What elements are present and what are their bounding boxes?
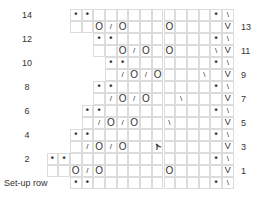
row-label: 1 bbox=[241, 166, 246, 176]
chart-cell: V bbox=[222, 21, 234, 33]
chart-cell bbox=[199, 21, 211, 33]
chart-cell: / bbox=[82, 165, 94, 177]
ssk-icon: \ bbox=[227, 35, 229, 43]
chart-cell bbox=[93, 129, 105, 141]
chart-cell bbox=[82, 117, 94, 129]
chart-cell bbox=[199, 105, 211, 117]
chart-cell bbox=[152, 105, 164, 117]
chart-cell bbox=[199, 153, 211, 165]
chart-cell bbox=[128, 33, 140, 45]
chart-cell: \ bbox=[199, 69, 211, 81]
purl-dot-icon: • bbox=[121, 58, 124, 67]
chart-cell bbox=[140, 153, 152, 165]
chart-cell bbox=[152, 129, 164, 141]
k2tog-icon: / bbox=[110, 143, 112, 151]
yarn-over-icon: O bbox=[95, 166, 103, 176]
k2tog-icon: / bbox=[133, 47, 135, 55]
chart-cell bbox=[105, 177, 117, 189]
chart-cell bbox=[199, 177, 211, 189]
chart-cell: • bbox=[70, 177, 82, 189]
k2tog-icon: / bbox=[98, 119, 100, 127]
chart-cell bbox=[105, 9, 117, 21]
chart-cell bbox=[199, 141, 211, 153]
chart-cell bbox=[93, 177, 105, 189]
yarn-over-icon: O bbox=[165, 22, 173, 32]
chart-cell bbox=[199, 165, 211, 177]
chart-cell: • bbox=[105, 81, 117, 93]
chart-cell bbox=[128, 21, 140, 33]
slip-stitch-icon: V bbox=[225, 46, 231, 55]
chart-cell bbox=[140, 33, 152, 45]
chart-cell bbox=[164, 57, 176, 69]
chart-cell: • bbox=[93, 105, 105, 117]
k2tog-icon: / bbox=[110, 95, 112, 103]
chart-cell: / bbox=[105, 21, 117, 33]
chart-cell bbox=[210, 69, 222, 81]
chart-cell bbox=[175, 129, 187, 141]
purl-dot-icon: • bbox=[86, 130, 89, 139]
chart-cell bbox=[128, 141, 140, 153]
ssk-icon: \ bbox=[168, 119, 170, 127]
chart-cell bbox=[105, 129, 117, 141]
chart-cell bbox=[105, 105, 117, 117]
chart-cell: • bbox=[105, 33, 117, 45]
chart-cell: / bbox=[140, 69, 152, 81]
row-label: 7 bbox=[241, 94, 246, 104]
chart-cell bbox=[128, 177, 140, 189]
chart-cell bbox=[117, 81, 129, 93]
chart-cell: • bbox=[210, 105, 222, 117]
chart-cell bbox=[152, 117, 164, 129]
chart-cell: \ bbox=[222, 33, 234, 45]
chart-cell: • bbox=[210, 33, 222, 45]
yarn-over-icon: O bbox=[95, 22, 103, 32]
chart-cell bbox=[175, 69, 187, 81]
chart-cell: \ bbox=[222, 81, 234, 93]
chart-cell bbox=[105, 69, 117, 81]
ssk-icon: \ bbox=[227, 107, 229, 115]
purl-dot-icon: • bbox=[109, 58, 112, 67]
k2tog-icon: / bbox=[86, 143, 88, 151]
chart-cell bbox=[117, 129, 129, 141]
purl-dot-icon: • bbox=[215, 82, 218, 91]
chart-cell bbox=[152, 33, 164, 45]
chart-cell bbox=[187, 165, 199, 177]
chart-cell bbox=[199, 129, 211, 141]
chart-cell: • bbox=[82, 9, 94, 21]
chart-cell bbox=[175, 9, 187, 21]
purl-dot-icon: • bbox=[98, 34, 101, 43]
k2tog-icon: / bbox=[86, 167, 88, 175]
purl-dot-icon: • bbox=[215, 106, 218, 115]
ssk-icon: \ bbox=[227, 83, 229, 91]
yarn-over-icon: O bbox=[72, 166, 80, 176]
chart-cell bbox=[199, 93, 211, 105]
purl-dot-icon: • bbox=[62, 154, 65, 163]
row-label: 5 bbox=[241, 118, 246, 128]
chart-cell: \ bbox=[222, 9, 234, 21]
chart-cell: V bbox=[222, 93, 234, 105]
slip-stitch-icon: V bbox=[225, 70, 231, 79]
chart-cell bbox=[164, 33, 176, 45]
chart-cell: \ bbox=[222, 153, 234, 165]
chart-cell bbox=[128, 81, 140, 93]
chart-cell bbox=[210, 93, 222, 105]
purl-dot-icon: • bbox=[109, 34, 112, 43]
purl-dot-icon: • bbox=[215, 58, 218, 67]
chart-cell: O bbox=[93, 141, 105, 153]
chart-cell: / bbox=[105, 141, 117, 153]
chart-cell: • bbox=[82, 105, 94, 117]
yarn-over-icon: O bbox=[107, 118, 115, 128]
purl-dot-icon: • bbox=[215, 154, 218, 163]
chart-cell bbox=[187, 117, 199, 129]
chart-cell: O bbox=[70, 165, 82, 177]
purl-dot-icon: • bbox=[51, 154, 54, 163]
chart-cell: O bbox=[105, 117, 117, 129]
chart-cell bbox=[187, 141, 199, 153]
purl-dot-icon: • bbox=[98, 106, 101, 115]
yarn-over-icon: O bbox=[119, 22, 127, 32]
chart-cell bbox=[93, 93, 105, 105]
chart-cell: O bbox=[164, 165, 176, 177]
yarn-over-icon: O bbox=[119, 142, 127, 152]
chart-cell bbox=[117, 153, 129, 165]
yarn-over-icon: O bbox=[119, 94, 127, 104]
chart-cell: • bbox=[105, 57, 117, 69]
